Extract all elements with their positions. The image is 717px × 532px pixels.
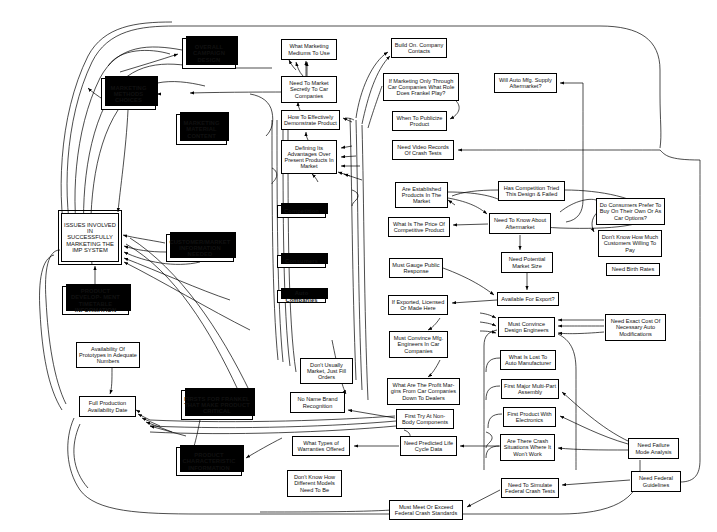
node-label: PRODUCT DEVELOP- MENT TIMETABLE INFORMAT… xyxy=(65,288,126,313)
node-label: MARKETING METHODS CHOICES xyxy=(104,85,153,104)
node-label: Need Predicted Life Cycle Data xyxy=(403,440,454,452)
node-need-to-simulate-federal-crash-tests[interactable]: Need To Simulate Federal Crash Tests xyxy=(501,478,559,498)
node-are-established-products[interactable]: Are Established Products In The Market xyxy=(395,182,448,208)
node-label: Don't Know How Different Models Need To … xyxy=(290,474,339,492)
node-must-gauge-public-response[interactable]: Must Gauge Public Response xyxy=(389,258,443,278)
node-available-for-export[interactable]: Available For Export? xyxy=(497,292,559,306)
node-label: Build On. Company Contacts xyxy=(394,42,444,54)
node-label: Will Auto Mfg. Supply Aftermarket? xyxy=(497,77,554,89)
node-label: Don't Know How Much Customers Willing To… xyxy=(601,234,659,252)
node-defining-its-advantages[interactable]: Defining Its Advantages Over Present Pro… xyxy=(281,140,337,174)
node-label: Competition xyxy=(280,208,323,214)
node-when-to-publicize-product[interactable]: When To Publicize Product xyxy=(392,111,447,131)
node-what-is-the-price[interactable]: What Is The Price Of Competitive Product xyxy=(388,217,450,237)
node-dont-know-how-much-customers[interactable]: Don't Know How Much Customers Willing To… xyxy=(598,230,662,257)
node-if-marketing-only-through[interactable]: If Marketing Only Through Car Companies … xyxy=(383,73,459,101)
node-are-there-crash-situations[interactable]: Are There Crash Situations Where It Won'… xyxy=(500,434,555,461)
node-marketing-material-content[interactable]: MARKETING MATERIAL CONTENT xyxy=(176,114,227,145)
node-label: Defining Its Advantages Over Present Pro… xyxy=(284,145,334,169)
node-product-development-timetable[interactable]: PRODUCT DEVELOP- MENT TIMETABLE INFORMAT… xyxy=(62,286,129,315)
node-need-federal-guidelines[interactable]: Need Federal Guidelines xyxy=(631,471,681,492)
node-must-convince-mfg-engineers[interactable]: Must Convince Mfg. Engineers In Car Comp… xyxy=(389,331,448,358)
node-build-on-company-contacts[interactable]: Build On. Company Contacts xyxy=(391,38,447,58)
node-issues-involved[interactable]: ISSUES INVOLVED IN SUCCESSFULLY MARKETIN… xyxy=(61,213,119,262)
node-label: What Marketing Mediums To Use xyxy=(284,43,334,55)
node-has-competition-tried[interactable]: Has Competition Tried This Design & Fail… xyxy=(498,181,565,201)
node-what-marketing-mediums[interactable]: What Marketing Mediums To Use xyxy=(281,39,337,60)
node-first-product-with-electronics[interactable]: First Product With Electronics xyxy=(503,407,556,427)
node-customer-market-information-needed[interactable]: CUSTOMER/MARKET INFORMATION NEEDED xyxy=(166,234,234,262)
diagram-canvas: OVERALL CAMPAIGN DESIGNMARKETING METHODS… xyxy=(0,0,717,532)
node-if-exported-licensed[interactable]: If Exported, Licensed Or Made Here xyxy=(388,295,448,315)
node-label: Must Convince Mfg. Engineers In Car Comp… xyxy=(392,335,445,353)
node-need-exact-cost[interactable]: Need Exact Cost Of Necessary Auto Modifi… xyxy=(605,314,666,341)
node-label: If Marketing Only Through Car Companies … xyxy=(386,78,456,96)
node-do-consumers-prefer[interactable]: Do Consumers Prefer To Buy On Their Own … xyxy=(596,198,665,225)
node-what-types-of-warranties[interactable]: What Types of Warranties Offered xyxy=(292,436,350,456)
node-what-are-the-profit-margins[interactable]: What Are The Profit Mar- gins From Car C… xyxy=(387,378,460,405)
node-need-to-market-secretly[interactable]: Need To Market Secretly To Car Companies xyxy=(281,76,337,103)
node-no-name-brand-recognition[interactable]: No Name Brand Recognition xyxy=(290,392,345,413)
node-need-to-know-about-aftermarket[interactable]: Need To Know About Aftermarket xyxy=(489,213,551,234)
node-marketing-methods-choices[interactable]: MARKETING METHODS CHOICES xyxy=(101,78,156,110)
node-need-predicted-life-cycle[interactable]: Need Predicted Life Cycle Data xyxy=(400,436,457,456)
node-label: If Exported, Licensed Or Made Here xyxy=(391,299,445,311)
node-label: When To Publicize Product xyxy=(395,115,444,127)
node-dont-know-how-different-models[interactable]: Don't Know How Different Models Need To … xyxy=(287,470,342,497)
node-label: ISSUES INVOLVED IN SUCCESSFULLY MARKETIN… xyxy=(64,222,116,253)
node-consumers[interactable]: Consumers xyxy=(277,255,326,268)
node-need-birth-rates[interactable]: Need Birth Rates xyxy=(606,263,660,276)
node-label: What Are The Profit Mar- gins From Car C… xyxy=(390,382,457,400)
node-label: Need Potential Market Size xyxy=(504,256,550,268)
node-will-auto-mfg-supply[interactable]: Will Auto Mfg. Supply Aftermarket? xyxy=(494,73,557,93)
node-label: Must Convince Design Engineers xyxy=(501,321,552,333)
node-firsts-for-frankel[interactable]: FIRSTS FOR FRANKEL THAT MAKE PRODUCT CRI… xyxy=(181,390,253,420)
node-auto-companies[interactable]: Auto Companies xyxy=(277,290,326,303)
node-label: Need Failure Mode Analysis xyxy=(631,442,676,454)
node-need-video-records[interactable]: Need Video Records Of Crash Tests xyxy=(392,140,454,160)
node-availability-of-prototypes[interactable]: Availability Of Prototypes in Adequate N… xyxy=(76,342,140,368)
node-label: First Major Multi-Part Assembly xyxy=(504,383,556,395)
node-label: Full Production Availability Date xyxy=(82,400,133,412)
node-dont-usually-market[interactable]: Don't Usually Market, Just Fill Orders xyxy=(300,358,353,384)
node-label: Need To Market Secretly To Car Companies xyxy=(284,80,334,98)
node-competition[interactable]: Competition xyxy=(277,205,326,218)
node-must-meet-or-exceed[interactable]: Must Meet Or Exceed Federal Crash Standa… xyxy=(389,500,463,520)
node-label: What Types of Warranties Offered xyxy=(295,440,347,452)
node-overall-campaign-design[interactable]: OVERALL CAMPAIGN DESIGN xyxy=(182,38,236,69)
node-label: Need Video Records Of Crash Tests xyxy=(395,144,451,156)
node-label: MARKETING MATERIAL CONTENT xyxy=(179,120,224,139)
node-label: How To Effectively Demonstrate Product xyxy=(284,114,337,126)
node-label: Available For Export? xyxy=(500,296,556,302)
node-label: PRODUCT CHARACTERISTIC INFORMATION xyxy=(179,452,239,471)
node-label: Availability Of Prototypes in Adequate N… xyxy=(79,346,137,364)
node-need-failure-mode-analysis[interactable]: Need Failure Mode Analysis xyxy=(628,438,679,459)
node-label: OVERALL CAMPAIGN DESIGN xyxy=(185,44,233,63)
node-label: No Name Brand Recognition xyxy=(293,396,342,408)
node-label: What Is Lost To Auto Manufacturer xyxy=(503,354,553,366)
node-label: Need Birth Rates xyxy=(609,266,657,272)
node-label: Has Competition Tried This Design & Fail… xyxy=(501,185,562,197)
node-label: Are There Crash Situations Where It Won'… xyxy=(503,438,552,456)
node-label: What Is The Price Of Competitive Product xyxy=(391,221,447,233)
node-what-is-lost-to-auto-manufacturer[interactable]: What Is Lost To Auto Manufacturer xyxy=(500,350,556,370)
node-label: Don't Usually Market, Just Fill Orders xyxy=(303,362,350,380)
node-full-production-availability-date[interactable]: Full Production Availability Date xyxy=(79,396,136,417)
node-label: First Try At Non- Body Components xyxy=(399,413,451,425)
node-label: First Product With Electronics xyxy=(506,411,553,423)
node-how-to-effectively-demonstrate[interactable]: How To Effectively Demonstrate Product xyxy=(281,110,340,130)
node-first-try-at-non-body[interactable]: First Try At Non- Body Components xyxy=(396,409,454,429)
node-need-potential-market-size[interactable]: Need Potential Market Size xyxy=(501,252,553,273)
node-label: Must Gauge Public Response xyxy=(392,262,440,274)
node-label: Auto Companies xyxy=(280,290,323,303)
node-must-convince-design-engineers[interactable]: Must Convince Design Engineers xyxy=(498,317,555,337)
node-label: Need Exact Cost Of Necessary Auto Modifi… xyxy=(608,318,663,336)
node-label: Need Federal Guidelines xyxy=(634,475,678,487)
node-label: Need To Simulate Federal Crash Tests xyxy=(504,482,556,494)
node-label: Must Meet Or Exceed Federal Crash Standa… xyxy=(392,504,460,516)
node-product-characteristic-information[interactable]: PRODUCT CHARACTERISTIC INFORMATION xyxy=(176,447,242,476)
node-label: Are Established Products In The Market xyxy=(398,186,445,204)
node-label: FIRSTS FOR FRANKEL THAT MAKE PRODUCT CRI… xyxy=(184,396,250,415)
node-label: Need To Know About Aftermarket xyxy=(492,217,548,229)
node-first-major-multi-part-assembly[interactable]: First Major Multi-Part Assembly xyxy=(501,379,559,399)
